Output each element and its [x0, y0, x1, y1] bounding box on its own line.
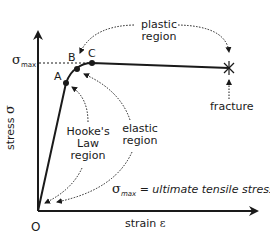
stress-strain-diagram: [0, 0, 270, 239]
point-b-label: B: [68, 52, 76, 64]
hookes-to-origin-arrow: [45, 168, 82, 203]
y-axis-symbol: σ: [2, 105, 17, 114]
y-axis-label-text: stress: [4, 117, 17, 150]
hookes-to-a-arrow: [72, 87, 88, 122]
sigma-max-label: σmax: [12, 54, 36, 71]
point-a-label: A: [54, 71, 62, 83]
elastic-region-line2: region: [118, 135, 162, 147]
point-b-marker: [74, 66, 80, 72]
fracture-label: fracture: [210, 101, 254, 113]
sigma-max-subscript: max: [21, 61, 36, 69]
x-axis-symbol: ε: [160, 217, 166, 230]
elastic-region-label: elastic region: [118, 123, 162, 147]
definition-symbol: σ: [112, 181, 121, 196]
definition-subscript: max: [121, 190, 136, 198]
sigma-max-symbol: σ: [12, 52, 21, 67]
x-axis-label: strain ε: [125, 218, 166, 230]
point-c-label: C: [88, 48, 96, 60]
point-c-marker: [89, 60, 95, 66]
plastic-to-fracture-arrow: [178, 25, 229, 52]
hookes-law-region-label: Hooke's Law region: [66, 126, 110, 162]
y-axis-label: stress σ: [2, 105, 17, 150]
definition-text: = ultimate tensile stress: [136, 183, 270, 196]
x-axis-label-text: strain: [125, 217, 156, 230]
point-a-marker: [63, 80, 69, 86]
sigma-max-definition: σmax = ultimate tensile stress: [112, 183, 270, 200]
plastic-region-line2: region: [138, 31, 180, 43]
hookes-law-line3: region: [66, 150, 110, 162]
plastic-region-label: plastic region: [138, 19, 180, 43]
elastic-to-c-arrow: [84, 74, 130, 120]
origin-label: O: [31, 221, 40, 233]
